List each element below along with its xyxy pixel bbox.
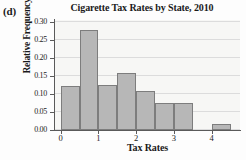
y-tick-mark [50,76,55,77]
plot-area [55,20,240,130]
x-tick-label: 1 [88,134,108,143]
x-tick-label: 0 [51,134,71,143]
gridline [55,21,240,22]
y-tick-label: 0.00 [17,126,47,134]
x-axis-spine [54,130,241,131]
y-tick-mark [50,112,55,113]
y-tick-label: 0.20 [17,54,47,62]
y-tick-mark [50,40,55,41]
panel-letter: (d) [3,6,16,17]
histogram-bar [174,103,193,130]
y-tick-label: 0.15 [17,72,47,80]
y-tick-label: 0.25 [17,36,47,44]
histogram-bar [61,86,80,130]
histogram-bar [117,73,136,130]
y-tick-mark [50,94,55,95]
y-tick-mark [50,58,55,59]
histogram-bar [80,30,99,130]
y-tick-mark [50,130,55,131]
y-tick-label: 0.10 [17,90,47,98]
histogram-bar [136,91,155,130]
x-axis-title: Tax Rates [55,143,240,153]
y-tick-label: 0.05 [17,108,47,116]
x-tick-label: 4 [202,134,222,143]
histogram-bar [98,85,117,130]
chart-title: Cigarette Tax Rates by State, 2010 [40,2,244,13]
histogram-bar [155,103,174,130]
y-tick-mark [50,22,55,23]
histogram-figure: (d) Cigarette Tax Rates by State, 2010 R… [0,0,246,160]
y-tick-label: 0.30 [17,18,47,26]
